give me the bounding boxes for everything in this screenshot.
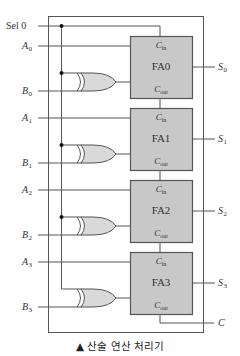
fa2-cout-label: Cout (130, 228, 192, 238)
fa3-cout-label: Cout (130, 300, 192, 310)
fa0-cout-label: Cout (130, 84, 192, 94)
junction-dot (60, 24, 64, 28)
b1-label: B1 (22, 158, 32, 169)
fa3-name: FA3 (130, 276, 192, 288)
b2-label: B2 (22, 230, 32, 241)
xor-gate-1 (77, 145, 116, 163)
fa0-cin-label: Cin (130, 40, 192, 50)
s2-label: S2 (218, 206, 227, 217)
fa1-cin-label: Cin (130, 112, 192, 122)
s1-label: S1 (218, 134, 227, 145)
carry-out-wire (160, 315, 214, 323)
sel-wire (38, 26, 160, 36)
a0-label: A0 (22, 41, 32, 52)
fa1-name: FA1 (130, 132, 192, 144)
fa2-cin-label: Cin (130, 184, 192, 194)
xor-gate-2 (77, 217, 116, 235)
b0-label: B0 (22, 86, 32, 97)
arithmetic-unit-diagram (0, 0, 240, 356)
sel-label: Sel 0 (6, 21, 26, 31)
figure-caption: ▲ 산술 연산 처리기 (0, 338, 240, 353)
a2-label: A2 (22, 185, 32, 196)
b3-label: B3 (22, 302, 32, 313)
carry-out-label: C (218, 318, 225, 328)
xor-gate-3 (77, 289, 116, 307)
xor-gate-0 (77, 73, 116, 91)
a3-label: A3 (22, 257, 32, 268)
s3-label: S3 (218, 278, 227, 289)
junction-dot (60, 143, 64, 147)
junction-dot (60, 215, 64, 219)
fa1-cout-label: Cout (130, 156, 192, 166)
fa3-cin-label: Cin (130, 256, 192, 266)
junction-dot (60, 71, 64, 75)
fa2-name: FA2 (130, 204, 192, 216)
fa0-name: FA0 (130, 60, 192, 72)
a1-label: A1 (22, 113, 32, 124)
s0-label: S0 (218, 62, 227, 73)
